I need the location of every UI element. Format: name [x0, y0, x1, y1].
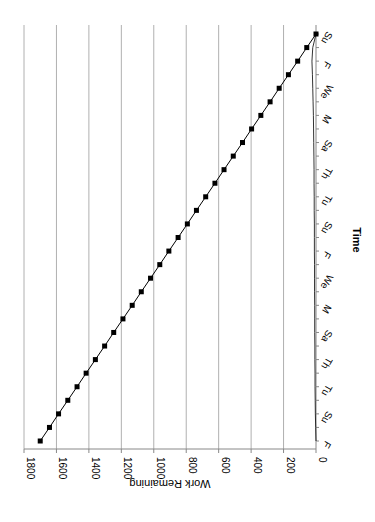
tick-labels: 020040060080010001200140016001800FSuTuTh…: [25, 30, 336, 480]
y-tick-label: 1200: [122, 457, 133, 480]
x-tick-label: Su: [319, 30, 335, 46]
x-tick-label: Su: [319, 220, 335, 236]
data-point-marker: [84, 371, 89, 376]
data-point-marker: [130, 303, 135, 308]
data-point-marker: [258, 113, 263, 118]
x-tick-label: We: [318, 83, 335, 102]
data-point-marker: [139, 289, 144, 294]
gridlines: [24, 25, 284, 449]
x-tick-label: M: [320, 303, 334, 316]
data-point-marker: [75, 384, 80, 389]
y-tick-label: 1400: [90, 457, 101, 480]
data-point-marker: [185, 221, 190, 226]
y-tick-label: 1000: [155, 457, 166, 480]
x-tick-label: M: [320, 113, 334, 126]
data-point-marker: [277, 86, 282, 91]
data-point-marker: [120, 316, 125, 321]
y-tick-label: 0: [317, 457, 328, 463]
series: [38, 32, 319, 444]
data-point-marker: [304, 45, 309, 50]
x-tick-label: Sa: [319, 138, 335, 154]
data-point-marker: [56, 411, 61, 416]
y-tick-label: 200: [285, 457, 296, 474]
x-tick-label: F: [321, 439, 334, 450]
data-point-marker: [295, 59, 300, 64]
data-point-marker: [111, 330, 116, 335]
x-tick-label: Sa: [319, 328, 335, 344]
data-point-marker: [102, 344, 107, 349]
data-point-marker: [47, 425, 52, 430]
data-point-marker: [212, 181, 217, 186]
axes: [24, 25, 319, 453]
data-point-marker: [268, 99, 273, 104]
x-axis-title: Time: [351, 227, 363, 252]
y-tick-label: 600: [220, 457, 231, 474]
data-point-marker: [166, 249, 171, 254]
data-point-marker: [240, 140, 245, 145]
data-point-marker: [231, 154, 236, 159]
burndown-chart: 020040060080010001200140016001800FSuTuTh…: [0, 0, 375, 522]
x-tick-label: We: [318, 273, 335, 292]
data-point-marker: [176, 235, 181, 240]
x-tick-label: Tu: [319, 383, 334, 398]
data-point-marker: [148, 276, 153, 281]
data-point-marker: [38, 439, 43, 444]
x-tick-label: Su: [319, 410, 335, 426]
x-tick-label: Tu: [319, 193, 334, 208]
data-point-marker: [286, 72, 291, 77]
y-tick-label: 800: [187, 457, 198, 474]
x-tick-label: F: [321, 59, 334, 70]
data-point-marker: [157, 262, 162, 267]
data-point-marker: [203, 194, 208, 199]
x-tick-label: Th: [319, 356, 334, 372]
data-point-marker: [93, 357, 98, 362]
data-point-marker: [249, 126, 254, 131]
x-tick-label: Th: [319, 166, 334, 182]
data-point-marker: [65, 398, 70, 403]
y-tick-label: 400: [252, 457, 263, 474]
x-tick-label: F: [321, 249, 334, 260]
y-tick-label: 1800: [25, 457, 36, 480]
y-tick-label: 1600: [57, 457, 68, 480]
data-point-marker: [194, 208, 199, 213]
data-point-marker: [222, 167, 227, 172]
actual-line: [312, 34, 316, 441]
y-axis-title: Work Remaining: [129, 478, 210, 490]
